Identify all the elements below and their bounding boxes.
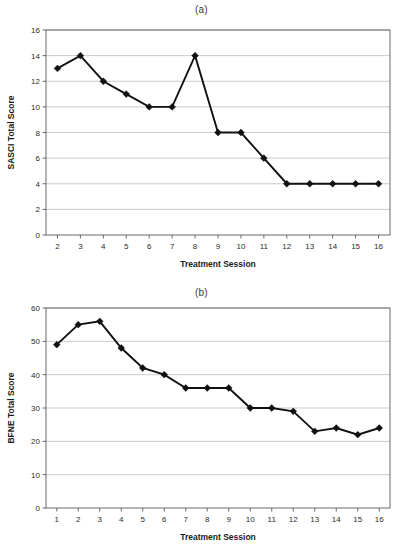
x-tick-label-14: 14	[332, 515, 341, 524]
data-point-marker	[352, 180, 359, 187]
data-point-marker	[204, 385, 211, 392]
x-tick-label-11: 11	[260, 242, 269, 251]
y-axis-title: BFNE Total Score	[6, 372, 16, 443]
x-tick-label-14: 14	[328, 242, 337, 251]
figure-container: (a) 02468101214162345678910111213141516T…	[0, 0, 403, 556]
x-tick-label-4: 4	[119, 515, 124, 524]
x-tick-label-7: 7	[184, 515, 189, 524]
x-tick-label-16: 16	[374, 242, 383, 251]
x-tick-label-13: 13	[305, 242, 314, 251]
y-tick-label-14: 14	[31, 52, 40, 61]
x-axis-title: Treatment Session	[180, 259, 256, 269]
data-point-marker	[268, 405, 275, 412]
x-tick-label-7: 7	[170, 242, 175, 251]
data-point-marker	[215, 129, 222, 136]
chart-panel-b: (b) 010203040506012345678910111213141516…	[0, 283, 403, 556]
x-tick-label-1: 1	[55, 515, 60, 524]
x-tick-label-2: 2	[55, 242, 60, 251]
x-tick-label-13: 13	[310, 515, 319, 524]
x-tick-label-3: 3	[78, 242, 83, 251]
y-tick-label-6: 6	[36, 154, 41, 163]
x-tick-label-12: 12	[282, 242, 291, 251]
x-axis-title: Treatment Session	[180, 532, 256, 542]
x-tick-label-5: 5	[141, 515, 146, 524]
chart-panel-a: (a) 02468101214162345678910111213141516T…	[0, 0, 403, 282]
data-point-marker	[376, 425, 383, 432]
y-tick-label-4: 4	[36, 180, 41, 189]
y-tick-label-50: 50	[31, 337, 40, 346]
x-tick-label-3: 3	[98, 515, 103, 524]
x-tick-label-10: 10	[246, 515, 255, 524]
data-point-marker	[333, 425, 340, 432]
data-point-marker	[192, 52, 199, 59]
series-line	[57, 56, 378, 184]
y-tick-label-30: 30	[31, 404, 40, 413]
y-tick-label-0: 0	[36, 231, 41, 240]
x-tick-label-9: 9	[227, 515, 232, 524]
y-tick-label-2: 2	[36, 205, 41, 214]
x-tick-label-15: 15	[351, 242, 360, 251]
data-point-marker	[329, 180, 336, 187]
data-point-marker	[169, 103, 176, 110]
data-point-marker	[354, 431, 361, 438]
x-tick-label-2: 2	[76, 515, 81, 524]
x-tick-label-11: 11	[268, 515, 277, 524]
x-tick-label-6: 6	[147, 242, 152, 251]
x-tick-label-8: 8	[205, 515, 210, 524]
y-tick-label-20: 20	[31, 437, 40, 446]
data-point-marker	[375, 180, 382, 187]
x-tick-label-6: 6	[162, 515, 167, 524]
x-tick-label-8: 8	[193, 242, 198, 251]
y-tick-label-0: 0	[36, 504, 41, 513]
y-tick-label-10: 10	[31, 103, 40, 112]
x-tick-label-5: 5	[124, 242, 129, 251]
y-tick-label-16: 16	[31, 26, 40, 35]
y-tick-label-60: 60	[31, 304, 40, 313]
y-tick-label-8: 8	[36, 129, 41, 138]
x-tick-label-15: 15	[353, 515, 362, 524]
y-tick-label-10: 10	[31, 471, 40, 480]
series-line	[57, 321, 380, 434]
data-point-marker	[306, 180, 313, 187]
chart-b-svg: 010203040506012345678910111213141516Trea…	[0, 283, 403, 556]
chart-a-svg: 02468101214162345678910111213141516Treat…	[0, 0, 403, 282]
y-axis-title: SASCI Total Score	[6, 95, 16, 169]
x-tick-label-10: 10	[236, 242, 245, 251]
x-tick-label-12: 12	[289, 515, 298, 524]
y-tick-label-40: 40	[31, 371, 40, 380]
x-tick-label-4: 4	[101, 242, 106, 251]
x-tick-label-9: 9	[216, 242, 221, 251]
x-tick-label-16: 16	[375, 515, 384, 524]
y-tick-label-12: 12	[31, 77, 40, 86]
